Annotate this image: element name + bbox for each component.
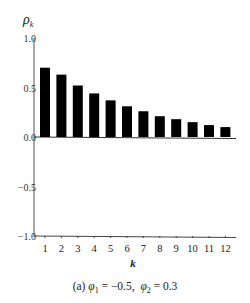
x-tick-label: 12 [220, 243, 231, 254]
bar-lag-11 [204, 125, 214, 137]
bar-lag-5 [106, 100, 116, 137]
chart-caption: (a) φ1 = −0.5, φ2 = 0.3 [0, 280, 250, 295]
k-label: k [130, 257, 136, 269]
x-tick-label: 1 [42, 243, 47, 254]
x-tick-label: 2 [59, 243, 64, 254]
x-tick-label: 3 [75, 243, 80, 254]
x-tick-label: 6 [124, 243, 129, 254]
x-axis-label: k [130, 257, 136, 269]
y-axis: 1.00.50.0−0.5−1.0 [18, 33, 36, 242]
zero-baseline [34, 137, 236, 139]
y-tick-label: −0.5 [18, 182, 36, 193]
phi1-value: = −0.5, [99, 280, 141, 292]
y-tick-label: 1.0 [24, 33, 37, 44]
y-tick-label: 0.5 [24, 83, 37, 94]
caption-prefix: (a) [73, 280, 89, 292]
phi2-value: = 0.3 [151, 280, 178, 292]
bar-lag-1 [40, 68, 50, 137]
bar-lag-12 [220, 127, 230, 137]
x-tick-label: 10 [187, 243, 198, 254]
x-tick-label: 11 [204, 243, 214, 254]
x-tick-label: 7 [141, 243, 146, 254]
bar-lag-3 [73, 86, 83, 137]
bar-lag-7 [138, 111, 148, 137]
x-axis: 123456789101112 [34, 236, 236, 254]
x-tick-label: 9 [174, 243, 179, 254]
rho-k-label: ρk [22, 12, 34, 29]
y-axis-label: ρk [22, 12, 34, 29]
x-tick-label: 4 [92, 243, 98, 254]
bar-lag-2 [56, 75, 66, 137]
bar-lag-6 [122, 106, 132, 137]
acf-bar-chart: ρk 1.00.50.0−0.5−1.0 123456789101112 k [0, 0, 250, 275]
bars [40, 68, 230, 137]
x-tick-label: 8 [157, 243, 162, 254]
bar-lag-10 [188, 122, 198, 137]
bar-lag-9 [171, 119, 181, 137]
x-tick-label: 5 [108, 243, 113, 254]
bar-lag-4 [89, 93, 99, 137]
bar-lag-8 [155, 116, 165, 137]
y-tick-label: −1.0 [18, 231, 36, 242]
